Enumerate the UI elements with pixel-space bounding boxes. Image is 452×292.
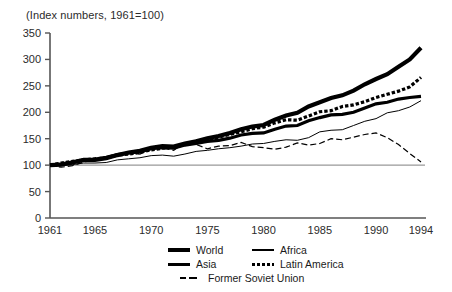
legend-swatch-asia-icon bbox=[168, 259, 190, 270]
y-tick-label: 250 bbox=[23, 80, 41, 92]
legend-swatch-africa-icon bbox=[252, 245, 274, 256]
x-tick-label: 1994 bbox=[409, 224, 433, 236]
legend-label-latin-america: Latin America bbox=[280, 258, 344, 270]
legend-item-world: World bbox=[168, 244, 252, 256]
legend-swatch-world-icon bbox=[168, 245, 190, 256]
x-axis: 19611965197019751980198519901994 bbox=[38, 218, 433, 236]
series-lines bbox=[50, 48, 421, 167]
x-tick-label: 1990 bbox=[364, 224, 388, 236]
legend-item-asia: Asia bbox=[168, 258, 252, 270]
legend-swatch-latin-america-icon bbox=[252, 259, 274, 270]
chart-figure: (Index numbers, 1961=100) 05010015020025… bbox=[0, 0, 452, 292]
legend-label-world: World bbox=[196, 244, 223, 256]
x-tick-label: 1980 bbox=[251, 224, 275, 236]
legend-label-former-soviet-union: Former Soviet Union bbox=[208, 272, 304, 284]
legend-item-latin-america: Latin America bbox=[252, 258, 412, 270]
x-tick-label: 1970 bbox=[139, 224, 163, 236]
y-tick-label: 350 bbox=[23, 27, 41, 39]
legend-row: World Africa bbox=[168, 243, 448, 257]
legend-item-africa: Africa bbox=[252, 244, 412, 256]
y-tick-label: 200 bbox=[23, 106, 41, 118]
y-tick-label: 50 bbox=[29, 186, 41, 198]
legend-label-asia: Asia bbox=[196, 258, 216, 270]
y-tick-label: 100 bbox=[23, 159, 41, 171]
chart-legend: World Africa Asia Latin America Former S… bbox=[168, 243, 448, 285]
legend-label-africa: Africa bbox=[280, 244, 307, 256]
legend-item-former-soviet-union: Former Soviet Union bbox=[180, 272, 340, 284]
x-tick-label: 1961 bbox=[38, 224, 62, 236]
y-tick-label: 300 bbox=[23, 53, 41, 65]
x-tick-label: 1975 bbox=[195, 224, 219, 236]
legend-row: Former Soviet Union bbox=[168, 271, 448, 285]
x-tick-label: 1965 bbox=[83, 224, 107, 236]
x-tick-label: 1985 bbox=[308, 224, 332, 236]
y-tick-label: 150 bbox=[23, 133, 41, 145]
legend-swatch-former-soviet-union-icon bbox=[180, 273, 202, 284]
y-axis: 050100150200250300350 bbox=[23, 27, 50, 224]
legend-row: Asia Latin America bbox=[168, 257, 448, 271]
y-tick-label: 0 bbox=[35, 212, 41, 224]
